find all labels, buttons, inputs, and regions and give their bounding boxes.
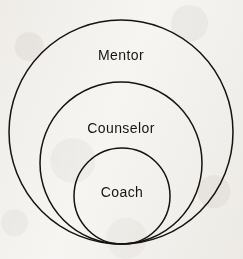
label-counselor: Counselor: [87, 120, 154, 136]
label-mentor: Mentor: [98, 47, 144, 63]
label-coach: Coach: [101, 184, 143, 200]
circle-counselor: [40, 82, 202, 244]
nested-circles-diagram: Mentor Counselor Coach: [0, 0, 243, 259]
